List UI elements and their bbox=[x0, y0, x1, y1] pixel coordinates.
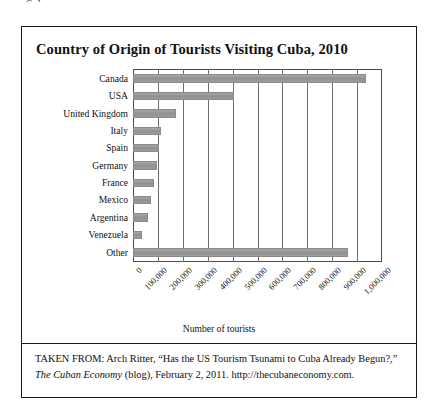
bar bbox=[133, 196, 151, 204]
source-url: http://thecubaneconomy.com. bbox=[231, 369, 354, 380]
x-tick-label: 800,000 bbox=[316, 265, 343, 292]
bar-row: Spain bbox=[133, 141, 382, 156]
bar-row: United Kingdom bbox=[133, 106, 382, 121]
bar bbox=[133, 74, 366, 82]
bar bbox=[133, 127, 161, 135]
bar bbox=[133, 231, 142, 239]
x-axis-tick-labels: 0100,000200,000300,000400,000500,000600,… bbox=[133, 265, 382, 323]
source-citation: TAKEN FROM: Arch Ritter, “Has the US Tou… bbox=[35, 351, 406, 382]
chart-title: Country of Origin of Tourists Visiting C… bbox=[36, 41, 348, 58]
bar-row: USA bbox=[133, 88, 382, 103]
source-line-2b: (blog), February 2, 2011. bbox=[122, 369, 229, 380]
category-label: United Kingdom bbox=[63, 109, 128, 119]
bar bbox=[133, 179, 154, 187]
x-axis-title: Number of tourists bbox=[22, 323, 416, 334]
x-tick-label: 600,000 bbox=[267, 265, 294, 292]
x-tick-label: 300,000 bbox=[192, 265, 219, 292]
category-label: Canada bbox=[99, 74, 128, 84]
bar-row: Other bbox=[133, 245, 382, 260]
x-tick-label: 0 bbox=[134, 265, 144, 275]
bar-row: Canada bbox=[133, 71, 382, 86]
bar-row: Italy bbox=[133, 123, 382, 138]
bar-row: Venezuela bbox=[133, 227, 382, 242]
source-line-2a: Already Begun?,” bbox=[322, 353, 397, 364]
category-label: USA bbox=[109, 91, 128, 101]
source-publication-title: The Cuban Economy bbox=[35, 369, 122, 380]
chart-plot-area: CanadaUSAUnited KingdomItalySpainGermany… bbox=[133, 69, 382, 262]
category-label: France bbox=[102, 178, 128, 188]
category-label: Italy bbox=[110, 126, 128, 136]
category-label: Argentina bbox=[90, 213, 128, 223]
bar bbox=[133, 248, 348, 256]
bar bbox=[133, 144, 159, 152]
bar bbox=[133, 213, 148, 221]
category-label: Mexico bbox=[99, 195, 128, 205]
category-label: Venezuela bbox=[89, 230, 128, 240]
bar-row: Germany bbox=[133, 158, 382, 173]
x-tick-label: 200,000 bbox=[167, 265, 194, 292]
bar-row: Argentina bbox=[133, 210, 382, 225]
bar bbox=[133, 109, 176, 117]
page-running-header: Cuba bbox=[26, 0, 48, 8]
category-label: Other bbox=[106, 248, 128, 258]
x-tick-label: 100,000 bbox=[142, 265, 169, 292]
bar bbox=[133, 92, 234, 100]
bar-rows: CanadaUSAUnited KingdomItalySpainGermany… bbox=[133, 69, 382, 262]
bar-row: Mexico bbox=[133, 193, 382, 208]
x-tick-label: 400,000 bbox=[217, 265, 244, 292]
bar-row: France bbox=[133, 175, 382, 190]
x-tick-label: 500,000 bbox=[242, 265, 269, 292]
x-tick-label: 700,000 bbox=[292, 265, 319, 292]
figure-container: Country of Origin of Tourists Visiting C… bbox=[21, 26, 417, 398]
category-label: Spain bbox=[106, 143, 128, 153]
source-line-1: TAKEN FROM: Arch Ritter, “Has the US Tou… bbox=[35, 353, 320, 364]
source-divider bbox=[22, 343, 416, 344]
category-label: Germany bbox=[92, 161, 128, 171]
bar bbox=[133, 161, 157, 169]
